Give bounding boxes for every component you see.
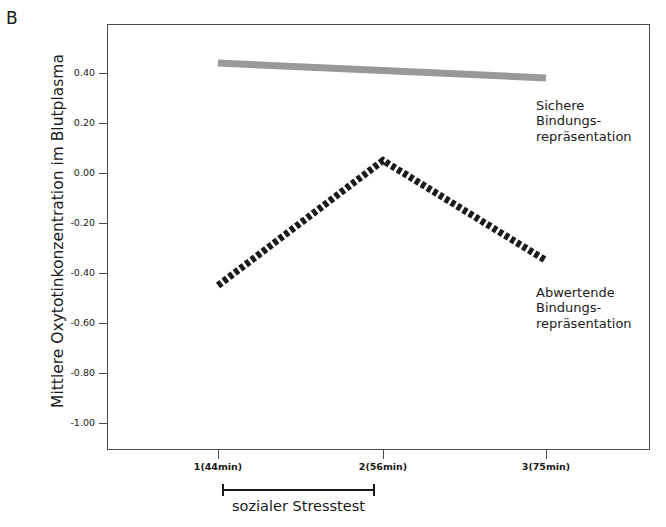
y-tick-label: -1.00 — [33, 417, 95, 428]
y-tick-label: 0.20 — [33, 117, 95, 128]
stress-test-label: sozialer Stresstest — [222, 498, 375, 514]
figure-panel-b: B Mittlere Oxytotinkonzentration im Blut… — [0, 0, 666, 527]
y-tick-mark — [99, 173, 108, 174]
bracket-bar — [222, 489, 375, 491]
y-tick-label: -0.40 — [33, 267, 95, 278]
y-tick-label: -0.20 — [33, 217, 95, 228]
y-tick-label: -0.60 — [33, 317, 95, 328]
y-tick-mark — [99, 273, 108, 274]
x-tick-mark — [546, 450, 547, 459]
plot-frame — [107, 24, 650, 450]
x-tick-label: 2(56min) — [323, 461, 443, 472]
stress-test-bracket — [222, 484, 375, 496]
y-tick-mark — [99, 323, 108, 324]
x-tick-label: 3(75min) — [486, 461, 606, 472]
y-tick-mark — [99, 123, 108, 124]
panel-letter: B — [6, 8, 18, 28]
y-tick-mark — [99, 373, 108, 374]
bracket-cap-right — [373, 484, 375, 496]
y-tick-mark — [99, 223, 108, 224]
x-tick-label: 1(44min) — [158, 461, 278, 472]
y-tick-label: 0.40 — [33, 67, 95, 78]
y-tick-mark — [99, 423, 108, 424]
y-tick-mark — [99, 73, 108, 74]
annotation-secure-attachment: Sichere Bindungs- repräsentation — [536, 98, 632, 144]
bracket-cap-left — [222, 484, 224, 496]
annotation-devaluing-attachment: Abwertende Bindungs- repräsentation — [536, 285, 632, 331]
x-tick-mark — [383, 450, 384, 459]
y-tick-label: -0.80 — [33, 367, 95, 378]
x-tick-mark — [218, 450, 219, 459]
y-tick-label: 0.00 — [33, 167, 95, 178]
